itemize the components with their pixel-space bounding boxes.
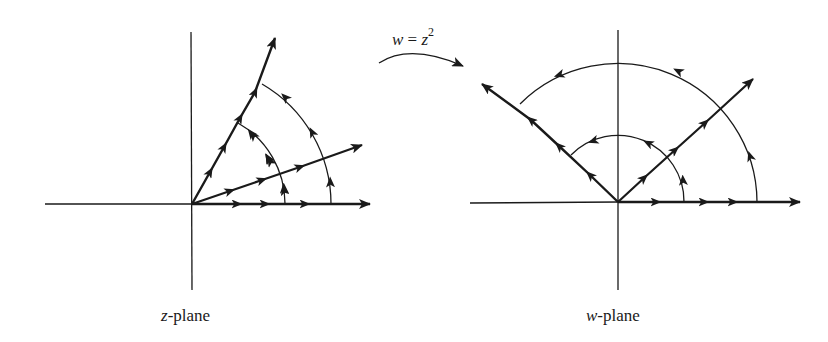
w-plane — [470, 30, 800, 290]
w-plane-label-var: w — [586, 306, 597, 325]
z-ray-22deg — [192, 145, 362, 204]
z-plane-label: z-plane — [161, 306, 210, 326]
mapping-equals: = — [403, 30, 421, 49]
w-ray-135deg — [482, 84, 618, 202]
mapping-exponent: 2 — [428, 25, 434, 39]
curved-arrow-icon — [379, 54, 463, 66]
mapping-label: w = z2 — [392, 27, 434, 50]
w-outer-arc — [520, 64, 757, 202]
z-plane-label-var: z — [161, 306, 168, 325]
z-outer-arc — [262, 84, 331, 204]
w-real-axis — [470, 202, 618, 203]
z-plane — [45, 32, 370, 290]
z-plane-label-suffix: -plane — [168, 306, 210, 325]
z-inner-arc-arrows — [250, 132, 284, 196]
z-imag-axis — [191, 32, 192, 290]
w-plane-label: w-plane — [586, 306, 640, 326]
z-inner-arc — [238, 123, 285, 204]
conformal-map-figure: w = z2 z-plane w-plane — [0, 0, 828, 342]
diagram-canvas — [0, 0, 828, 342]
w-plane-label-suffix: -plane — [597, 306, 639, 325]
mapping-arrow — [379, 54, 463, 66]
w-ray-45deg — [618, 79, 753, 202]
mapping-lhs: w — [392, 30, 403, 49]
